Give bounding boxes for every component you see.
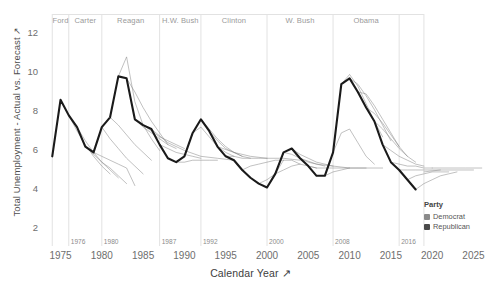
president-label-w-bush[interactable]: W. Bush	[286, 16, 315, 25]
x-tick-1990: 1990	[173, 250, 195, 261]
legend-label: Republican	[433, 222, 470, 232]
legend-swatch-icon	[424, 214, 430, 220]
x-tick-2015: 2015	[380, 250, 402, 261]
x-tick-2005: 2005	[297, 250, 319, 261]
forecast-series-line[interactable]	[358, 92, 399, 147]
president-label-ford[interactable]: Ford	[53, 16, 69, 25]
legend: Party DemocratRepublican	[424, 200, 470, 232]
y-tick-4: 4	[0, 182, 38, 193]
x-tick-1985: 1985	[132, 250, 154, 261]
unemployment-line-chart: Total Unemployment - Actual vs. Forecast…	[0, 0, 501, 286]
sort-arrow-icon[interactable]: ↗	[282, 267, 291, 279]
y-tick-10: 10	[0, 65, 38, 76]
x-axis-title[interactable]: Calendar Year ↗	[0, 267, 501, 279]
legend-title: Party	[424, 200, 470, 210]
term-boundary-year-1987: 1987	[162, 238, 177, 245]
forecast-series-line[interactable]	[110, 117, 151, 160]
x-tick-2025: 2025	[462, 250, 484, 261]
legend-label: Democrat	[433, 212, 465, 222]
president-label-obama[interactable]: Obama	[353, 16, 378, 25]
legend-entries: DemocratRepublican	[424, 212, 470, 232]
y-tick-6: 6	[0, 143, 38, 154]
y-tick-12: 12	[0, 26, 38, 37]
term-boundary-year-1976: 1976	[71, 238, 86, 245]
term-boundary-year-1980: 1980	[104, 238, 119, 245]
forecast-series-line[interactable]	[407, 172, 448, 180]
x-tick-2020: 2020	[421, 250, 443, 261]
x-tick-1975: 1975	[49, 250, 71, 261]
term-boundary-year-2008: 2008	[335, 238, 350, 245]
legend-swatch-icon	[424, 224, 430, 230]
x-axis-title-text: Calendar Year	[210, 267, 279, 279]
y-tick-8: 8	[0, 104, 38, 115]
forecast-series-line[interactable]	[176, 160, 217, 162]
forecast-series-line[interactable]	[325, 168, 366, 176]
x-tick-1995: 1995	[215, 250, 237, 261]
president-label-carter[interactable]: Carter	[74, 16, 96, 25]
president-label-reagan[interactable]: Reagan	[117, 16, 144, 25]
forecast-series-line[interactable]	[118, 57, 159, 151]
x-tick-2010: 2010	[338, 250, 360, 261]
president-label-clinton[interactable]: Clinton	[222, 16, 246, 25]
y-axis-title[interactable]: Total Unemployment - Actual vs. Forecast…	[11, 2, 22, 242]
term-boundary-year-2000: 2000	[269, 238, 284, 245]
x-tick-1980: 1980	[91, 250, 113, 261]
president-label-h-w-bush[interactable]: H.W. Bush	[162, 16, 199, 25]
x-tick-2000: 2000	[256, 250, 278, 261]
forecast-series-line[interactable]	[333, 129, 374, 164]
term-boundary-year-1992: 1992	[203, 238, 218, 245]
term-boundary-year-2016: 2016	[401, 238, 416, 245]
legend-item-republican[interactable]: Republican	[424, 222, 470, 232]
forecast-series-line[interactable]	[94, 152, 135, 185]
forecast-series-line[interactable]	[366, 108, 407, 157]
forecast-series-line[interactable]	[193, 127, 234, 156]
legend-item-democrat[interactable]: Democrat	[424, 212, 470, 222]
y-tick-2: 2	[0, 221, 38, 232]
